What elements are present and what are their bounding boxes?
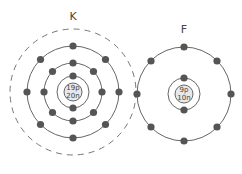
atom-label-k: K bbox=[69, 10, 77, 23]
atom-f: F 9p 10n bbox=[133, 23, 234, 145]
proton-count: 19p bbox=[66, 84, 80, 92]
atom-k: K 19p 20n bbox=[10, 10, 136, 155]
neutron-count: 20n bbox=[66, 92, 79, 100]
proton-count: 9p bbox=[180, 86, 189, 94]
bohr-diagram: K 19p 20n F 9p 10n bbox=[0, 0, 242, 174]
neutron-count: 10n bbox=[177, 94, 190, 102]
atom-label-f: F bbox=[181, 23, 187, 36]
